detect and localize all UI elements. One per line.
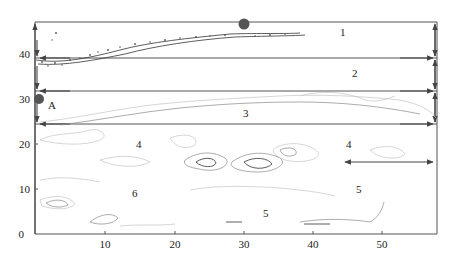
x-tick-20: 20 — [170, 238, 182, 250]
y-tick-0: 0 — [19, 228, 25, 240]
zone-label-6: 6 — [132, 187, 138, 199]
zone-label-3: 3 — [243, 107, 249, 119]
y-tick-20: 20 — [19, 138, 31, 150]
y-tick-30: 30 — [19, 93, 31, 105]
zone-4-contours — [40, 130, 405, 172]
zone-3-speckles — [40, 92, 436, 125]
point-A-label: A — [48, 99, 56, 111]
x-tick-30: 30 — [239, 238, 251, 250]
upper-speckle-band — [36, 32, 305, 67]
right-boundary-arrows — [345, 24, 435, 162]
x-tick-40: 40 — [308, 238, 320, 250]
zone-label-5-right: 5 — [356, 183, 362, 195]
x-tick-10: 10 — [100, 238, 112, 250]
zone-label-5-bottom: 5 — [263, 207, 269, 219]
zonation-figure: A 1 2 3 4 4 5 5 6 0 10 20 30 40 10 20 30… — [0, 0, 456, 265]
y-tick-40: 40 — [19, 48, 31, 60]
x-tick-50: 50 — [377, 238, 389, 250]
left-boundary-arrows — [35, 24, 70, 234]
plot-frame — [35, 22, 437, 234]
lower-zone-contours — [40, 178, 384, 226]
zone-label-4-right: 4 — [346, 138, 352, 150]
zone-label-4-left: 4 — [136, 138, 142, 150]
zone-label-1: 1 — [340, 26, 346, 38]
top-point-marker — [239, 19, 250, 30]
zone-label-2: 2 — [352, 67, 358, 79]
y-tick-10: 10 — [19, 183, 31, 195]
